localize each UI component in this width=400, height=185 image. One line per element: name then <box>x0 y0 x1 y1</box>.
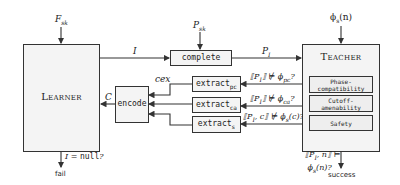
condition-s: ⟦PI, c⟧ ⊭ ϕs(c)? <box>243 112 304 123</box>
check-cutoff-amenability-label: Cutoff-amenability <box>310 97 372 111</box>
condition-pc: ⟦PI⟧ ⊭ ϕpc? <box>250 72 295 83</box>
check-phase-compatibility-label: Phase-compatibility <box>310 78 372 92</box>
check-safety-label: Safety <box>310 120 372 127</box>
extract-pc-box: extractpc <box>192 76 241 92</box>
edge-label-pi: PI <box>262 46 270 58</box>
extract-s-label: extracts <box>193 119 240 130</box>
teacher-input-label: ϕs(n) <box>330 12 352 24</box>
encode-label: encode <box>116 99 148 108</box>
check-safety: Safety <box>309 115 373 131</box>
fail-condition: I = null? <box>65 152 104 161</box>
extract-s-box: extracts <box>192 116 241 133</box>
teacher-title: Teacher <box>303 51 379 62</box>
extract-ca-box: extractca <box>192 97 241 113</box>
extract-ca-label: extractca <box>193 100 240 111</box>
encode-box: encode <box>115 86 149 123</box>
learner-input-label: Fsk <box>55 14 68 26</box>
condition-ca: ⟦PI⟧ ⊭ ϕca? <box>250 94 294 105</box>
edge-label-i: I <box>133 46 137 56</box>
extract-pc-label: extractpc <box>193 79 240 90</box>
edge-label-c: C <box>105 92 112 102</box>
fail-label: fail <box>55 170 66 178</box>
learner-box: Learner <box>23 44 100 152</box>
success-label: success <box>328 171 355 179</box>
complete-box: complete <box>170 50 232 66</box>
edge-label-cex: cex <box>155 74 170 84</box>
check-cutoff-amenability: Cutoff-amenability <box>309 95 373 112</box>
teacher-box: Teacher Phase-compatibility Cutoff-amena… <box>302 44 380 152</box>
learner-title: Learner <box>24 91 99 102</box>
complete-label: complete <box>171 53 231 62</box>
check-phase-compatibility: Phase-compatibility <box>309 76 373 93</box>
complete-input-label: Psk <box>193 20 206 32</box>
